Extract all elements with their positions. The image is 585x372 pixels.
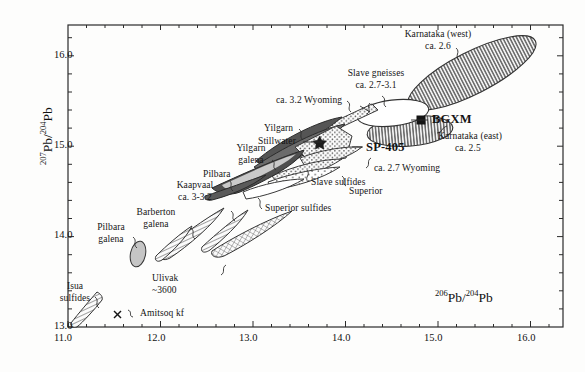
label-slave-gneisses: Slave gneisses (331, 68, 421, 79)
label-slave-gneisses-age: ca. 2.7-3.1 (331, 80, 421, 91)
x-axis-title-sup1: 206 (435, 288, 448, 298)
y-axis-title-mid: Pb/ (40, 134, 55, 152)
plot-canvas (0, 0, 585, 372)
x-tick-13: 13.0 (239, 332, 257, 343)
label-isua-2: sulfides (46, 293, 104, 304)
label-karnataka-west: Karnataka (west) (379, 29, 497, 40)
x-axis-title-sup2: 204 (466, 288, 479, 298)
x-axis-title-mid: Pb/ (448, 290, 466, 305)
leader-wyoming-32 (347, 101, 351, 112)
label-kaapvaal-2: ca. 3-3.2 (158, 192, 232, 203)
y-tick-13: 13.0 (54, 320, 72, 331)
leader-superior-sulfides (258, 198, 262, 209)
y-axis-title-sup2: 204 (38, 121, 48, 134)
y-axis-title-end: Pb (40, 107, 55, 121)
x-axis-ticks (68, 321, 549, 327)
label-yilgarn-galena-2: galena (222, 155, 280, 166)
label-karnataka-east-age: ca. 2.5 (455, 143, 481, 154)
marker-amitsoq-kf (114, 311, 121, 318)
leader-wyoming-27 (366, 158, 371, 168)
label-isua-1: Isua (46, 281, 104, 292)
x-tick-14: 14.0 (332, 332, 350, 343)
label-superior: Superior (349, 186, 383, 197)
label-pilbara-galena-1: Pilbara (80, 222, 142, 233)
figure-root: 13.0 14.0 15.0 16.0 11.0 12.0 13.0 14.0 … (0, 0, 585, 372)
x-tick-11: 11.0 (54, 332, 72, 343)
y-axis-title: 207Pb/204Pb (38, 107, 56, 165)
label-karnataka-west-age: ca. 2.6 (379, 41, 497, 52)
y-tick-14: 14.0 (54, 229, 72, 240)
leader-amitsoq (128, 310, 133, 317)
label-yilgarn-galena-1: Yilgarn (222, 143, 280, 154)
y-tick-16: 16.0 (54, 49, 72, 60)
label-amitsoq-kf: Amitsoq kf (140, 308, 184, 319)
x-tick-12: 12.0 (147, 332, 165, 343)
label-wyoming-27: ca. 2.7 Wyoming (374, 163, 440, 174)
x-tick-15: 15.0 (424, 332, 442, 343)
y-axis-right-ticks (557, 38, 563, 309)
label-karnataka-east: Karnataka (east) (438, 131, 502, 142)
label-wyoming-32: ca. 3.2 Wyoming (276, 95, 342, 106)
x-axis-title: 206Pb/204Pb (435, 288, 493, 306)
label-superior-sulfides: Superior sulfides (265, 203, 331, 214)
label-pilbara-galena-2: galena (80, 234, 142, 245)
label-ulivak-2: ~3600 (152, 285, 177, 296)
y-axis-title-sup1: 207 (38, 152, 48, 165)
label-yilgarn: Yilgarn (264, 123, 293, 134)
label-barberton-1: Barberton (120, 207, 192, 218)
y-tick-15: 15.0 (54, 139, 72, 150)
label-ulivak-1: Ulivak (152, 273, 178, 284)
x-axis-title-end: Pb (479, 290, 493, 305)
label-bgxm: BGXM (432, 112, 472, 126)
x-tick-16: 16.0 (517, 332, 535, 343)
label-pilbara: Pilbara (203, 169, 231, 180)
label-sp-405: SP-405 (366, 140, 405, 154)
label-kaapvaal-1: Kaapvaal (158, 180, 232, 191)
leader-ulivak (221, 265, 226, 275)
